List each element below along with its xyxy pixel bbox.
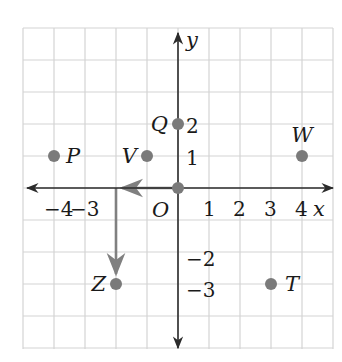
x-tick-label: 4 — [295, 197, 308, 221]
point-label: W — [291, 123, 315, 147]
y-tick-label: 2 — [186, 114, 199, 138]
point-o — [172, 182, 184, 194]
x-tick-label: −3 — [70, 197, 99, 221]
coordinate-plane-figure: x y O −4−31234 21−2−3 PVQWZT — [0, 0, 342, 362]
point-dot — [172, 182, 184, 194]
point-dot — [141, 150, 153, 162]
point-label: Z — [90, 272, 106, 296]
y-axis-label: y — [185, 28, 199, 52]
x-tick-label: 1 — [203, 197, 216, 221]
point-dot — [110, 278, 122, 290]
point-label: T — [285, 272, 301, 296]
point-label: V — [122, 144, 139, 168]
point-dot — [296, 150, 308, 162]
point-dot — [172, 118, 184, 130]
y-tick-label: 1 — [186, 146, 199, 170]
x-tick-labels: −4−31234 — [44, 197, 308, 221]
point-q: Q — [151, 112, 184, 136]
y-tick-label: −3 — [186, 278, 215, 302]
x-tick-label: 2 — [233, 197, 246, 221]
point-label: P — [65, 144, 81, 168]
y-tick-label: −2 — [186, 247, 215, 271]
point-dot — [265, 278, 277, 290]
x-tick-label: 3 — [264, 197, 277, 221]
point-label: Q — [151, 112, 168, 136]
x-axis-label: x — [313, 197, 325, 221]
point-dot — [48, 150, 60, 162]
origin-label: O — [152, 198, 169, 222]
